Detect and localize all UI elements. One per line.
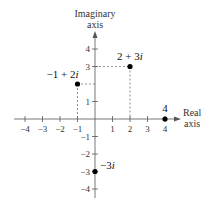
imaginary-axis-title-line2: axis: [87, 19, 103, 30]
y-tick-label: −3: [80, 167, 90, 177]
axes: [14, 31, 181, 198]
complex-plane-diagram: Imaginary axis Real axis −4−3−2−11234431…: [0, 0, 210, 209]
y-tick-label: −2: [80, 149, 90, 159]
x-tick-label: −3: [38, 124, 48, 134]
y-tick-label: 1: [86, 97, 91, 107]
real-axis-arrow-icon: [174, 117, 181, 122]
y-tick-label: −1: [80, 132, 90, 142]
x-tick-label: −2: [55, 124, 65, 134]
point-label: 4: [162, 102, 168, 114]
data-points: 2 + 3i−1 + 2i4−3i: [47, 50, 169, 175]
point-marker-icon: [75, 81, 80, 86]
x-tick-label: 2: [128, 124, 133, 134]
point-label: 2 + 3i: [117, 50, 143, 62]
y-tick-label: 4: [86, 44, 91, 54]
x-tick-label: 3: [145, 124, 150, 134]
point-marker-icon: [162, 116, 167, 121]
y-tick-label: −4: [80, 184, 90, 194]
imaginary-axis-arrow-icon: [93, 31, 98, 38]
y-tick-label: 3: [86, 62, 91, 72]
guide-lines: [78, 67, 131, 120]
point-label: −1 + 2i: [47, 68, 79, 80]
x-tick-label: 4: [163, 124, 168, 134]
point-marker-icon: [127, 64, 132, 69]
x-tick-label: 1: [110, 124, 115, 134]
imaginary-axis-title-line1: Imaginary: [74, 8, 115, 19]
real-axis-title-line2: axis: [184, 118, 200, 129]
x-tick-label: −4: [20, 124, 30, 134]
point-marker-icon: [92, 169, 97, 174]
point-label: −3i: [100, 159, 115, 171]
real-axis-title-line1: Real: [183, 107, 202, 118]
